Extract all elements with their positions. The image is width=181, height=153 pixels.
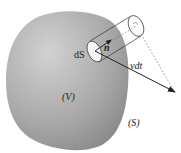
label-volume: (V) <box>62 91 75 103</box>
label-normal: n <box>104 42 110 53</box>
control-volume-shape <box>6 11 128 150</box>
label-displacement: vdt <box>130 60 142 71</box>
label-surface-element: dS <box>74 49 85 60</box>
label-surface: (S) <box>128 117 140 129</box>
diagram-canvas: dS n vdt (V) (S) <box>0 0 181 153</box>
